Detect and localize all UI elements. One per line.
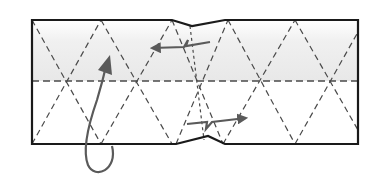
pleat-arrow-bottom [187, 118, 246, 129]
crease-pattern-diagram [0, 0, 387, 191]
shaded-upper-half [32, 20, 358, 81]
